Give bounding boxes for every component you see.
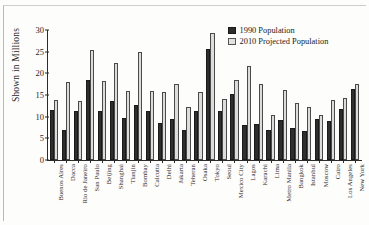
x-axis-label: Metro Manila — [285, 164, 292, 202]
x-axis-label: Beijing — [105, 164, 112, 184]
x-axis-label: Bombay — [141, 164, 148, 187]
x-tick-mark — [174, 159, 175, 163]
plot-area: 051015202530 — [48, 30, 361, 160]
bar-group — [253, 30, 265, 160]
bar-2010 — [307, 107, 311, 160]
bar-group — [132, 30, 144, 160]
bar-2010 — [174, 84, 178, 160]
bar-2010 — [66, 82, 70, 160]
bar-group — [156, 30, 168, 160]
x-tick-mark — [138, 159, 139, 163]
x-tick-mark — [66, 159, 67, 163]
x-tick-mark — [198, 159, 199, 163]
x-tick-mark — [126, 159, 127, 163]
x-tick-mark — [78, 159, 79, 163]
x-tick-mark — [343, 159, 344, 163]
x-axis-label: Buenos Aires — [57, 164, 64, 201]
x-axis-label: Tianjin — [129, 164, 136, 184]
x-tick-mark — [186, 159, 187, 163]
bar-2010 — [234, 80, 238, 160]
x-tick-mark — [247, 159, 248, 163]
x-axis-label: Tokyo — [213, 164, 220, 181]
bar-2010 — [210, 33, 214, 160]
x-tick-mark — [283, 159, 284, 163]
bar-2010 — [114, 63, 118, 160]
bar-2010 — [343, 98, 347, 160]
x-axis-label: Bangkok — [297, 164, 304, 189]
x-axis-label: Lagos — [249, 164, 256, 181]
x-axis-label: Jakarta — [177, 164, 184, 183]
x-tick-mark — [271, 159, 272, 163]
x-tick-mark — [162, 159, 163, 163]
bar-2010 — [198, 92, 202, 160]
x-axis-label: Teheran — [189, 164, 196, 186]
bar-2010 — [295, 103, 299, 160]
bar-group — [72, 30, 84, 160]
x-axis-label: Seoul — [225, 164, 232, 180]
bar-2010 — [54, 100, 58, 160]
bar-group — [337, 30, 349, 160]
x-axis-line — [47, 160, 362, 161]
bar-group — [144, 30, 156, 160]
bar-group — [241, 30, 253, 160]
bar-group — [289, 30, 301, 160]
bar-group — [228, 30, 240, 160]
light-swatch-icon — [228, 38, 236, 45]
x-axis-label: Cairo — [334, 164, 341, 179]
bar-2010 — [138, 52, 142, 160]
x-axis-label: Calcutta — [153, 164, 160, 187]
bar-2010 — [247, 66, 251, 160]
x-tick-mark — [210, 159, 211, 163]
x-tick-mark — [54, 159, 55, 163]
x-tick-mark — [331, 159, 332, 163]
bar-2010 — [283, 90, 287, 160]
x-tick-mark — [319, 159, 320, 163]
y-axis-title: Shown in Millions — [11, 5, 21, 125]
chart-page: Shown in Millions 051015202530 Buenos Ai… — [0, 0, 369, 225]
bar-2010 — [90, 50, 94, 160]
bar-2010 — [271, 115, 275, 161]
legend-entry: 2010 Projected Population — [228, 37, 328, 46]
x-axis-label: Los Angeles — [346, 164, 353, 198]
bar-group — [84, 30, 96, 160]
bar-2010 — [162, 92, 166, 160]
x-tick-mark — [295, 159, 296, 163]
bar-group — [96, 30, 108, 160]
x-axis-label: Delhi — [165, 164, 172, 179]
chart-legend: 1990 Population2010 Projected Population — [228, 26, 328, 47]
x-tick-mark — [90, 159, 91, 163]
bar-group — [120, 30, 132, 160]
bar-group — [301, 30, 313, 160]
dark-swatch-icon — [228, 27, 236, 34]
x-axis-label: Moscow — [322, 164, 329, 187]
x-tick-mark — [222, 159, 223, 163]
bar-2010 — [222, 99, 226, 160]
x-axis-label: Lima — [273, 164, 280, 178]
bar-2010 — [186, 107, 190, 160]
bar-group — [216, 30, 228, 160]
bar-group — [60, 30, 72, 160]
legend-entry: 1990 Population — [228, 26, 328, 35]
x-tick-mark — [102, 159, 103, 163]
x-axis-label: Mexico City — [237, 164, 244, 198]
x-tick-mark — [307, 159, 308, 163]
x-axis-label: Shanghai — [117, 164, 124, 189]
bar-2010 — [259, 84, 263, 160]
bar-2010 — [126, 91, 130, 160]
bar-group — [325, 30, 337, 160]
x-tick-mark — [355, 159, 356, 163]
bar-group — [204, 30, 216, 160]
bar-groups — [48, 30, 361, 160]
x-axis-label: Karachi — [261, 164, 268, 186]
bar-group — [48, 30, 60, 160]
x-tick-mark — [114, 159, 115, 163]
bar-2010 — [150, 91, 154, 160]
x-tick-mark — [150, 159, 151, 163]
x-axis-label: Rio de Janeiro — [81, 164, 88, 204]
bar-group — [265, 30, 277, 160]
bar-2010 — [319, 115, 323, 161]
legend-label: 1990 Population — [240, 26, 295, 35]
x-tick-mark — [259, 159, 260, 163]
bar-group — [277, 30, 289, 160]
x-axis-label: Osaka — [201, 164, 208, 181]
